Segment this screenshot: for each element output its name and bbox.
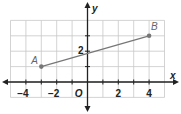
point-b <box>147 34 152 39</box>
y-axis-up-arrow-icon <box>85 2 91 8</box>
point-label-b: B <box>151 21 158 32</box>
x-tick-label: 2 <box>116 88 122 99</box>
point-label-a: A <box>30 55 38 66</box>
y-tick-label: 2 <box>78 45 84 56</box>
origin-label: O <box>75 88 83 99</box>
y-axis-down-arrow-icon <box>85 106 91 112</box>
x-tick-label: −2 <box>48 88 60 99</box>
point-a <box>39 64 44 69</box>
x-tick-label: 4 <box>146 88 152 99</box>
x-tick-label: −4 <box>17 88 29 99</box>
x-axis-left-arrow-icon <box>2 79 8 85</box>
y-axis-label: y <box>91 3 98 14</box>
coordinate-plane: −4−2242OxyAB <box>0 0 181 114</box>
x-axis-label: x <box>169 70 176 81</box>
